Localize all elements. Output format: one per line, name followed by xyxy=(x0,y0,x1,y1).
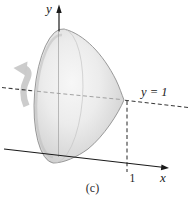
y-axis xyxy=(56,5,61,32)
rotation-axis-dashed-right xyxy=(125,100,188,107)
y-axis-label: y xyxy=(44,1,52,16)
x-tick-label-1: 1 xyxy=(130,172,136,184)
rotation-axis-label: y = 1 xyxy=(139,85,167,99)
rotation-axis-dashed-left xyxy=(2,88,36,92)
solid-of-revolution-figure: y x y = 1 1 (c) xyxy=(0,0,190,197)
figure-caption: (c) xyxy=(86,181,99,195)
x-axis xyxy=(4,149,169,170)
rotation-arrowhead-icon xyxy=(14,62,28,77)
y-axis-arrowhead-icon xyxy=(56,5,61,14)
solid-of-revolution xyxy=(34,29,124,163)
rotation-arrow-icon xyxy=(14,62,29,107)
figure-canvas: y x y = 1 1 (c) xyxy=(0,0,190,197)
x-axis-label: x xyxy=(159,170,166,185)
